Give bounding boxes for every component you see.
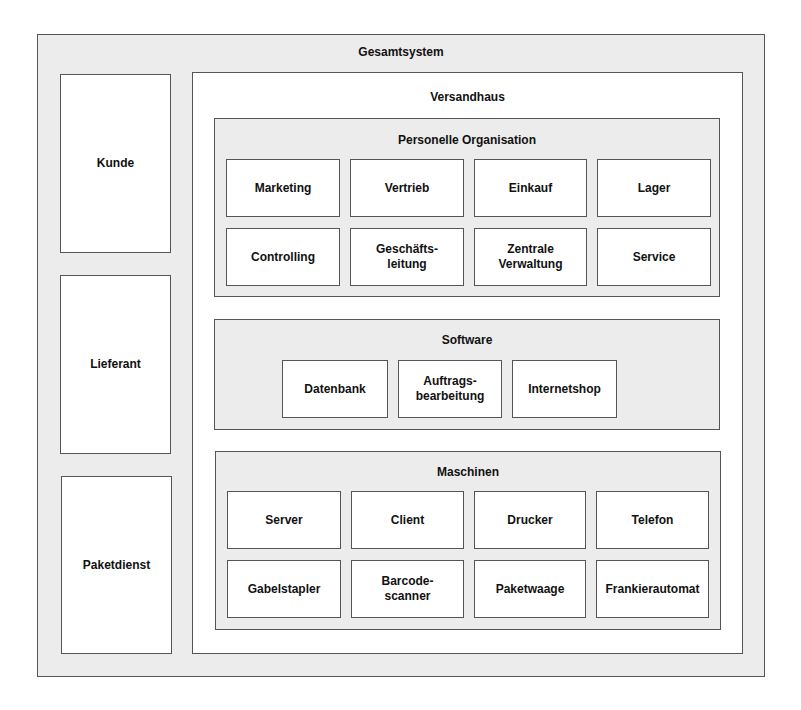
- software-internetshop: Internetshop: [512, 360, 617, 418]
- org-unit-controlling: Controlling: [226, 228, 340, 286]
- personelle-organisation-grid: Marketing Vertrieb Einkauf Lager Control…: [226, 159, 711, 286]
- machine-paketwaage: Paketwaage: [474, 560, 586, 618]
- actor-kunde: Kunde: [60, 74, 171, 253]
- software-auftragsbearbeitung: Auftrags- bearbeitung: [398, 360, 502, 418]
- maschinen-grid: Server Client Drucker Telefon Gabelstapl…: [227, 491, 709, 618]
- org-unit-lager: Lager: [597, 159, 711, 217]
- machine-drucker: Drucker: [474, 491, 586, 549]
- software-grid: Datenbank Auftrags- bearbeitung Internet…: [282, 360, 617, 418]
- org-unit-service: Service: [597, 228, 711, 286]
- org-unit-geschaeftsleitung: Geschäfts- leitung: [350, 228, 464, 286]
- actor-lieferant: Lieferant: [60, 275, 171, 454]
- actor-label: Paketdienst: [83, 558, 150, 573]
- org-unit-marketing: Marketing: [226, 159, 340, 217]
- machine-client: Client: [351, 491, 464, 549]
- software-datenbank: Datenbank: [282, 360, 388, 418]
- org-unit-einkauf: Einkauf: [474, 159, 587, 217]
- org-unit-zentrale-verwaltung: Zentrale Verwaltung: [474, 228, 587, 286]
- actor-label: Lieferant: [90, 357, 141, 372]
- machine-telefon: Telefon: [596, 491, 709, 549]
- machine-barcodescanner: Barcode- scanner: [351, 560, 464, 618]
- machine-gabelstapler: Gabelstapler: [227, 560, 341, 618]
- gesamtsystem-title: Gesamtsystem: [38, 45, 764, 59]
- software-title: Software: [215, 333, 719, 347]
- machine-server: Server: [227, 491, 341, 549]
- actor-label: Kunde: [97, 156, 134, 171]
- maschinen-title: Maschinen: [216, 465, 720, 479]
- personelle-organisation-title: Personelle Organisation: [215, 133, 719, 147]
- versandhaus-title: Versandhaus: [193, 90, 742, 104]
- actor-paketdienst: Paketdienst: [61, 476, 172, 654]
- org-unit-vertrieb: Vertrieb: [350, 159, 464, 217]
- machine-frankierautomat: Frankierautomat: [596, 560, 709, 618]
